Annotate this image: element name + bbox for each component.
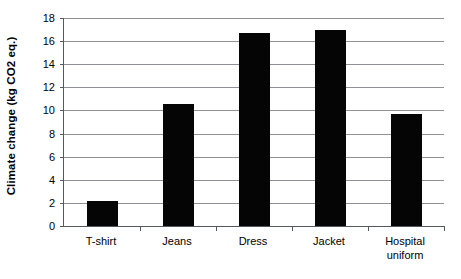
x-axis-tick-label: T-shirt: [86, 234, 117, 248]
y-axis-tick-label: 8: [49, 128, 55, 140]
y-axis-title: Climate change (kg CO2 eq.): [0, 0, 22, 232]
bar: [163, 104, 194, 226]
x-axis-tick-mark: [292, 226, 293, 231]
bar: [315, 30, 346, 226]
bar-chart-figure: Climate change (kg CO2 eq.) 024681012141…: [0, 0, 461, 279]
y-axis-tick-mark: [60, 180, 64, 181]
bar: [87, 201, 118, 226]
y-axis-tick-mark: [60, 87, 64, 88]
x-axis-tick-label: Dress: [239, 234, 268, 248]
x-axis-tick-mark: [216, 226, 217, 231]
y-axis-tick-mark: [60, 41, 64, 42]
x-axis-tick-mark: [140, 226, 141, 231]
y-axis-tick-label: 16: [43, 35, 55, 47]
y-axis-tick-mark: [60, 64, 64, 65]
x-axis-tick-label: Jeans: [162, 234, 191, 248]
x-axis-tick-label: Hospital uniform: [385, 234, 425, 262]
x-axis-tick-mark: [444, 226, 445, 231]
plot-area: [63, 18, 444, 227]
y-axis-tick-mark: [60, 134, 64, 135]
y-axis-tick-label: 12: [43, 81, 55, 93]
y-axis-tick-labels: 024681012141618: [22, 0, 60, 279]
y-axis-tick-mark: [60, 157, 64, 158]
gridline: [64, 18, 444, 19]
y-axis-tick-label: 6: [49, 151, 55, 163]
y-axis-tick-label: 10: [43, 104, 55, 116]
y-axis-tick-label: 14: [43, 58, 55, 70]
x-axis-tick-label: Jacket: [313, 234, 345, 248]
y-axis-tick-mark: [60, 203, 64, 204]
y-axis-tick-mark: [60, 18, 64, 19]
y-axis-title-label: Climate change (kg CO2 eq.): [5, 37, 17, 196]
x-axis-tick-labels: T-shirtJeansDressJacketHospital uniform: [63, 234, 443, 279]
y-axis-tick-label: 0: [49, 220, 55, 232]
x-axis-tick-mark: [368, 226, 369, 231]
bar: [239, 33, 270, 226]
y-axis-tick-label: 4: [49, 174, 55, 186]
y-axis-tick-label: 2: [49, 197, 55, 209]
bar: [391, 114, 422, 226]
y-axis-tick-label: 18: [43, 12, 55, 24]
y-axis-tick-mark: [60, 226, 64, 227]
y-axis-tick-mark: [60, 110, 64, 111]
